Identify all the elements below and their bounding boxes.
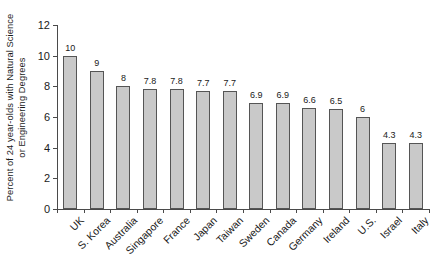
bar[interactable] bbox=[196, 91, 210, 209]
y-axis-tick-label: 10 bbox=[38, 50, 50, 62]
x-axis-tick-mark bbox=[216, 209, 217, 213]
y-axis-title-text: Percent of 24 year-olds with Natural Sci… bbox=[6, 14, 29, 202]
x-axis-tick-mark bbox=[137, 209, 138, 213]
y-axis-line bbox=[57, 25, 58, 209]
x-axis-tick-mark bbox=[110, 209, 111, 213]
y-axis-tick-mark bbox=[53, 86, 57, 87]
bar-value-label: 10 bbox=[65, 43, 75, 53]
bar[interactable] bbox=[329, 109, 343, 209]
x-axis-tick-mark bbox=[84, 209, 85, 213]
y-axis-tick-label: 6 bbox=[44, 111, 50, 123]
x-axis-tick-mark bbox=[402, 209, 403, 213]
x-axis-category-label: France bbox=[160, 214, 192, 246]
bar[interactable] bbox=[223, 91, 237, 209]
bar-value-label: 6.9 bbox=[277, 90, 290, 100]
x-axis-tick-mark bbox=[323, 209, 324, 213]
y-axis-tick-label: 12 bbox=[38, 19, 50, 31]
y-axis-tick-label: 2 bbox=[44, 172, 50, 184]
y-axis-tick-label: 8 bbox=[44, 80, 50, 92]
bar-value-label: 4.3 bbox=[409, 130, 422, 140]
x-axis-tick-mark bbox=[57, 209, 58, 213]
x-axis-category-label: Italy bbox=[409, 214, 431, 236]
bar-value-label: 8 bbox=[121, 73, 126, 83]
x-axis-tick-mark bbox=[296, 209, 297, 213]
y-axis-title: Percent of 24 year-olds with Natural Sci… bbox=[0, 0, 34, 215]
x-axis-category-label: Ireland bbox=[320, 214, 351, 245]
bar[interactable] bbox=[356, 117, 370, 209]
bar-value-label: 7.8 bbox=[170, 76, 183, 86]
x-axis-tick-mark bbox=[163, 209, 164, 213]
bar-value-label: 7.7 bbox=[197, 78, 210, 88]
y-axis-title-line-2: or Engineering Degrees bbox=[17, 14, 29, 202]
bar-value-label: 9 bbox=[94, 58, 99, 68]
y-axis-tick-mark bbox=[53, 178, 57, 179]
y-axis-tick-label: 4 bbox=[44, 142, 50, 154]
x-axis-tick-mark bbox=[190, 209, 191, 213]
y-axis-tick-mark bbox=[53, 117, 57, 118]
bar-value-label: 6.9 bbox=[250, 90, 263, 100]
bar[interactable] bbox=[116, 86, 130, 209]
x-axis-tick-mark bbox=[243, 209, 244, 213]
bar[interactable] bbox=[249, 103, 263, 209]
y-axis-tick-mark bbox=[53, 25, 57, 26]
bar-value-label: 6.5 bbox=[330, 96, 343, 106]
bar-value-label: 6.6 bbox=[303, 95, 316, 105]
bar[interactable] bbox=[302, 108, 316, 209]
x-axis-tick-mark bbox=[270, 209, 271, 213]
x-axis-tick-mark bbox=[376, 209, 377, 213]
bar-value-label: 7.7 bbox=[223, 78, 236, 88]
x-axis-category-label: Israel bbox=[378, 214, 405, 241]
y-axis-tick-label: 0 bbox=[44, 203, 50, 215]
bar[interactable] bbox=[143, 89, 157, 209]
x-axis-category-label: U.S. bbox=[355, 214, 378, 237]
bar[interactable] bbox=[382, 143, 396, 209]
y-axis-tick-mark bbox=[53, 56, 57, 57]
plot-area: 024681012 10987.87.87.77.76.96.96.66.564… bbox=[57, 25, 429, 209]
x-axis-category-label: UK bbox=[67, 214, 86, 233]
bar[interactable] bbox=[63, 56, 77, 209]
bar[interactable] bbox=[90, 71, 104, 209]
bar-value-label: 7.8 bbox=[144, 76, 157, 86]
chart-figure: Percent of 24 year-olds with Natural Sci… bbox=[0, 0, 436, 268]
y-axis-title-line-1: Percent of 24 year-olds with Natural Sci… bbox=[6, 14, 18, 202]
x-axis-tick-mark bbox=[429, 209, 430, 213]
y-axis-tick-mark bbox=[53, 148, 57, 149]
bar-value-label: 4.3 bbox=[383, 130, 396, 140]
bar[interactable] bbox=[276, 103, 290, 209]
bar[interactable] bbox=[170, 89, 184, 209]
bar[interactable] bbox=[409, 143, 423, 209]
bar-value-label: 6 bbox=[360, 104, 365, 114]
x-axis-tick-mark bbox=[349, 209, 350, 213]
